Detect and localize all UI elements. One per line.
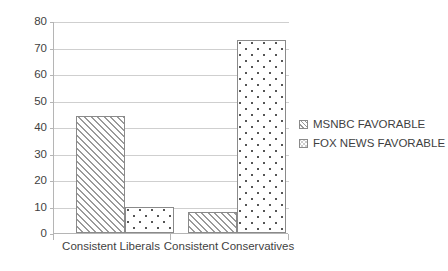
- legend-swatch-hatch-icon: [299, 120, 308, 129]
- y-tick-label: 10: [34, 202, 47, 214]
- x-axis-label-consistent-liberals: Consistent Liberals: [62, 240, 160, 253]
- y-tick-label: 30: [34, 149, 47, 161]
- y-tick-mark: [50, 49, 54, 50]
- x-axis-separator: [53, 234, 54, 240]
- y-tick-label: 40: [34, 122, 47, 134]
- y-tick-label: 70: [34, 43, 47, 55]
- y-tick-label: 0: [41, 228, 47, 240]
- y-tick-mark: [50, 102, 54, 103]
- legend-label: MSNBC FAVORABLE: [313, 118, 425, 131]
- y-tick-mark: [50, 128, 54, 129]
- y-tick-label: 60: [34, 69, 47, 81]
- bar-fox-news-consistent-liberals: [125, 207, 174, 234]
- y-tick-mark: [50, 208, 54, 209]
- legend-item-msnbc-favorable: MSNBC FAVORABLE: [299, 115, 444, 134]
- y-tick-mark: [50, 181, 54, 182]
- y-tick-label: 50: [34, 96, 47, 108]
- y-tick-label: 80: [34, 16, 47, 28]
- bar-msnbc-consistent-liberals: [76, 116, 125, 233]
- x-axis-label-consistent-conservatives: Consistent Conservatives: [164, 240, 294, 253]
- y-tick-mark: [50, 155, 54, 156]
- bar-msnbc-consistent-conservatives: [188, 212, 237, 233]
- y-tick-mark: [50, 75, 54, 76]
- bar-chart: 0 10 20 30 40 50: [0, 0, 448, 271]
- plot-area: 0 10 20 30 40 50: [53, 22, 288, 234]
- y-tick-mark: [50, 22, 54, 23]
- legend-swatch-dots-icon: [299, 139, 308, 148]
- legend-item-fox-news-favorable: FOX NEWS FAVORABLE: [299, 134, 444, 153]
- y-tick-label: 20: [34, 175, 47, 187]
- gridline: [54, 22, 289, 23]
- legend-label: FOX NEWS FAVORABLE: [313, 137, 445, 150]
- bar-fox-news-consistent-conservatives: [237, 40, 286, 234]
- legend: MSNBC FAVORABLE FOX NEWS FAVORABLE: [299, 115, 444, 153]
